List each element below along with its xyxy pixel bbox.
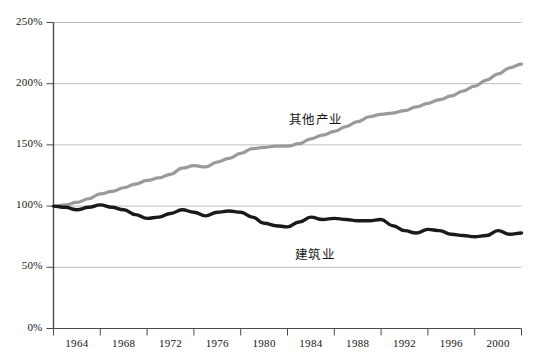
series-label-other-industry: 其他产业 bbox=[289, 109, 343, 128]
y-tick-label: 150% bbox=[16, 137, 42, 149]
line-chart-plot bbox=[0, 0, 540, 360]
axis-ticks-group bbox=[47, 23, 522, 336]
data-series-group bbox=[54, 64, 522, 237]
y-tick-label: 200% bbox=[16, 76, 42, 88]
y-tick-label: 0% bbox=[27, 321, 42, 333]
series-line-other-industry bbox=[54, 64, 522, 206]
series-line-construction bbox=[54, 205, 522, 237]
series-label-construction: 建筑业 bbox=[295, 244, 336, 263]
y-tick-label: 250% bbox=[16, 15, 42, 27]
y-tick-label: 50% bbox=[22, 259, 43, 271]
chart-container: 250%200%150%100%50%0% 196419681972197619… bbox=[0, 0, 540, 360]
gridlines-group bbox=[54, 23, 522, 329]
x-tick-label: 2000 bbox=[468, 337, 528, 349]
y-tick-label: 100% bbox=[16, 198, 42, 210]
